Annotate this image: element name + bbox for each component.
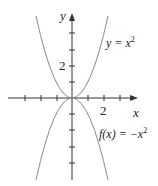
y-tick-label-2: 2: [59, 58, 66, 73]
x-axis-arrow-icon: [130, 95, 138, 101]
y-axis-arrow-icon: [69, 13, 75, 21]
x-axis-label: x: [132, 105, 139, 120]
y-axis-label: y: [58, 8, 66, 23]
legend-y-equals-x-squared: y = x2: [105, 35, 135, 50]
parabola-chart: y x 2 2 y = x2 f(x) = −x2: [0, 0, 158, 186]
x-tick-label-2: 2: [100, 103, 107, 118]
legend-f-equals-neg-x-squared: f(x) = −x2: [99, 126, 147, 141]
